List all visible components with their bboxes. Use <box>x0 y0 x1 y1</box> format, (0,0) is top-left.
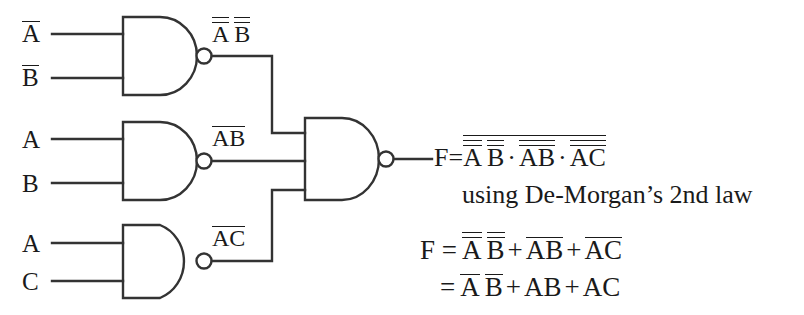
gate-2-bubble <box>197 154 212 169</box>
gate-3-bubble <box>197 254 212 269</box>
gate-1-output-label: AB <box>212 16 250 46</box>
gate-1-input-2-label: B <box>22 64 39 90</box>
logic-circuit-diagram: A B A B A C AB AB AC F=AB·AB·AC using De… <box>0 0 804 315</box>
equation-line-3: =AB+AB+AC <box>440 273 620 301</box>
gate-2-body <box>123 122 197 200</box>
gate-2-output-label: AB <box>212 125 245 150</box>
equation-line-1: F=AB·AB·AC <box>434 134 606 171</box>
gate-3-input-1-label: A <box>22 231 40 256</box>
equation-line-2: F =AB+AB+AC <box>420 231 622 264</box>
gate-2-input-1-label: A <box>22 127 40 152</box>
gate-1-bubble <box>197 49 212 64</box>
gate-1-body <box>123 17 197 95</box>
demorgan-note: using De-Morgan’s 2nd law <box>462 182 753 208</box>
gate-2-input-2-label: B <box>22 171 39 196</box>
circuit-schematic <box>0 0 804 315</box>
gate-out-body <box>305 118 379 200</box>
gate-3-body <box>123 225 184 298</box>
equation-f-prefix: F= <box>434 143 463 172</box>
gate-3-output-label: AC <box>212 225 245 250</box>
gate-out-bubble <box>379 152 394 167</box>
gate-1-output-wire <box>212 56 305 133</box>
gate-3-input-2-label: C <box>22 269 39 294</box>
gate-1-input-1-label: A <box>22 20 40 46</box>
